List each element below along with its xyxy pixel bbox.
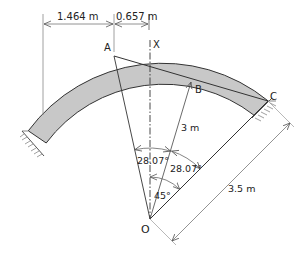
point-A-label: A	[104, 42, 111, 53]
dim-3m-label: 3 m	[181, 122, 199, 133]
angle-XOC-label: 45°	[154, 190, 171, 201]
angle-BOC-label: 28.07°	[170, 163, 202, 174]
point-X-label: X	[153, 39, 160, 50]
dim-1464-label: 1.464 m	[57, 11, 99, 22]
angle-arc-AOB	[135, 148, 171, 151]
arch-rib	[28, 63, 268, 143]
point-C-label: C	[270, 91, 277, 102]
angle-arc-XOC	[150, 177, 180, 189]
dim-0657-label: 0.657 m	[116, 11, 158, 22]
dim-3.5	[172, 123, 290, 241]
ext-3.5-top	[268, 101, 294, 127]
angle-AOB-label: 28.07°	[137, 155, 169, 166]
dim-3.5m-label: 3.5 m	[228, 183, 255, 194]
point-B-label: B	[195, 84, 202, 95]
point-O-label: O	[141, 223, 150, 236]
arch-diagram: 1.464 m 0.657 m A X B C O 3 m 3.5 m 28.0…	[0, 0, 307, 265]
